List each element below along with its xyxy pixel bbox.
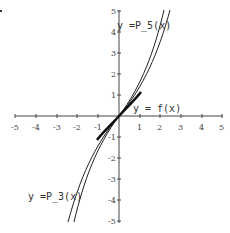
svg-text:-3: -3 bbox=[53, 123, 61, 132]
svg-text:-1: -1 bbox=[108, 133, 116, 142]
svg-text:-5: -5 bbox=[108, 217, 116, 226]
svg-text:4: 4 bbox=[111, 28, 116, 37]
svg-text:5: 5 bbox=[111, 7, 116, 16]
x-tick-labels: -5 -4 -3 -2 -1 1 2 3 4 5 bbox=[11, 123, 224, 132]
svg-text:1: 1 bbox=[111, 91, 116, 100]
svg-text:-2: -2 bbox=[73, 123, 81, 132]
svg-text:1: 1 bbox=[137, 123, 142, 132]
svg-text:-4: -4 bbox=[108, 196, 116, 205]
svg-text:-4: -4 bbox=[32, 123, 40, 132]
svg-text:4: 4 bbox=[199, 123, 204, 132]
f-label: y = f(x) bbox=[133, 103, 181, 114]
svg-text:3: 3 bbox=[178, 123, 183, 132]
p3-label: y =P_3(x) bbox=[28, 191, 82, 203]
svg-text:5: 5 bbox=[219, 123, 224, 132]
svg-text:-5: -5 bbox=[11, 123, 19, 132]
chart: -5 -4 -3 -2 -1 1 2 3 4 5 5 4 3 2 1 -1 -2… bbox=[0, 0, 230, 233]
svg-text:2: 2 bbox=[111, 70, 116, 79]
svg-text:-1: -1 bbox=[94, 123, 102, 132]
svg-text:2: 2 bbox=[157, 123, 162, 132]
corner-dot bbox=[0, 10, 2, 12]
svg-text:3: 3 bbox=[111, 49, 116, 58]
p5-label: y =P_5(x) bbox=[117, 20, 171, 32]
svg-text:-2: -2 bbox=[108, 154, 116, 163]
svg-text:-3: -3 bbox=[108, 175, 116, 184]
